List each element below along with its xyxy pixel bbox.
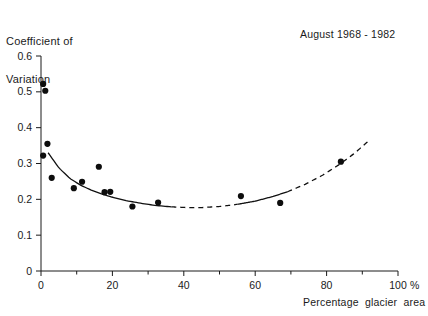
x-tick-label: 40 (178, 279, 190, 291)
x-axis-unit-label: % (410, 279, 419, 291)
data-points (40, 81, 344, 210)
fit-curve-dashed (171, 204, 237, 207)
data-point (277, 200, 283, 206)
data-point (44, 141, 50, 147)
axes (41, 56, 398, 271)
data-point (155, 199, 161, 205)
fit-curve (48, 140, 369, 207)
data-point (338, 159, 344, 165)
x-axis-label: Percentage glacier area (303, 296, 425, 308)
y-axis-title-line1: Coefficient of (6, 35, 73, 48)
data-point (107, 189, 113, 195)
y-tick-label: 0.3 (17, 157, 32, 169)
data-point (40, 153, 46, 159)
data-point (49, 175, 55, 181)
y-axis-title-line2: Variation (6, 73, 73, 86)
fit-curve-solid (48, 153, 171, 207)
x-tick-label: 80 (321, 279, 333, 291)
y-tick-label: 0.1 (17, 229, 32, 241)
data-point (71, 185, 77, 191)
x-axis-ticks: 020406080100 (38, 271, 407, 291)
x-tick-label: 20 (107, 279, 119, 291)
data-point (96, 164, 102, 170)
data-point (101, 189, 107, 195)
chart-figure: Coefficient of Variation August 1968 - 1… (0, 0, 428, 316)
data-point (129, 203, 135, 209)
data-point (79, 179, 85, 185)
y-tick-label: 0.2 (17, 193, 32, 205)
fit-curve-dashed (287, 140, 369, 192)
y-tick-label: 0.4 (17, 121, 32, 133)
y-tick-label: 0 (26, 265, 32, 277)
x-tick-label: 60 (249, 279, 261, 291)
x-tick-label: 100 (389, 279, 407, 291)
data-point (238, 193, 244, 199)
y-axis-title: Coefficient of Variation (6, 10, 73, 111)
chart-annotation: August 1968 - 1982 (300, 28, 395, 40)
x-tick-label: 0 (38, 279, 44, 291)
